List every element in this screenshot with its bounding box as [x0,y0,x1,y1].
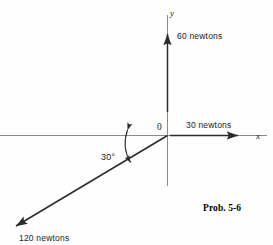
y-axis-label: y [170,8,174,18]
force-vector-120-newtons [16,136,168,227]
axis-lines [0,15,267,186]
force-label-30-newtons: 30 newtons [186,120,231,130]
force-label-60-newtons: 60 newtons [177,31,222,41]
origin-label: 0 [157,122,162,132]
force-vector-diagram: 60 newtons 30 newtons 120 newtons 30° y … [0,0,273,245]
force-label-120-newtons: 120 newtons [19,233,69,243]
angle-label-30-degrees: 30° [101,152,115,162]
figure-caption: Prob. 5-6 [203,203,241,213]
x-axis-label: x [256,131,260,141]
